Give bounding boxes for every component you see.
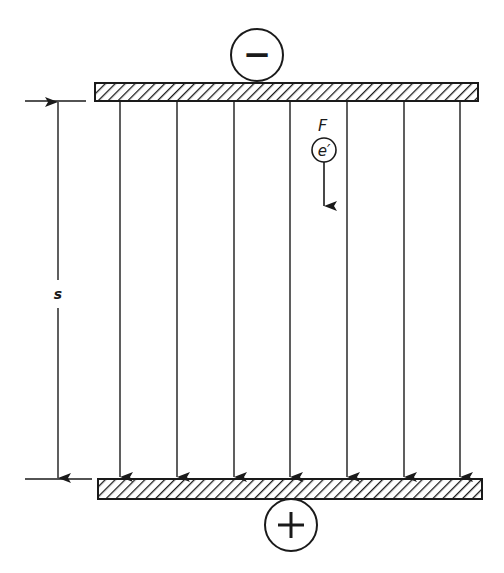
top-plate (95, 83, 478, 101)
bottom-plate (98, 479, 482, 499)
test-charge: F e′ (312, 116, 336, 206)
parallel-plate-diagram: − F e′ s (0, 0, 504, 573)
negative-charge-icon: − (231, 29, 283, 81)
negative-sign: − (243, 34, 272, 74)
charge-label: e′ (318, 142, 331, 160)
separation-label: s (54, 286, 62, 302)
positive-charge-icon (265, 499, 317, 551)
force-label: F (318, 116, 328, 135)
field-lines (120, 101, 460, 477)
